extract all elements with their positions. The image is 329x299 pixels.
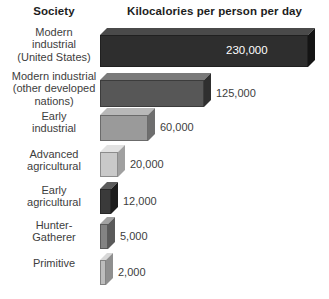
row-label: Modern industrial (United States) — [0, 26, 108, 63]
bar-value-label: 60,000 — [160, 121, 194, 133]
bar — [100, 217, 115, 249]
energy-consumption-bar-chart: Society Kilocalories per person per day … — [0, 0, 329, 299]
bar-top-face — [100, 28, 315, 35]
bar-value-label: 2,000 — [118, 266, 146, 278]
bar-value-label: 5,000 — [120, 230, 148, 242]
bar — [100, 108, 155, 141]
bar-value-label: 20,000 — [130, 158, 164, 170]
bar — [100, 73, 211, 107]
bar-value-label: 125,000 — [216, 87, 256, 99]
bar-3d-body — [100, 73, 211, 107]
row-label: Advanced agricultural — [0, 148, 108, 173]
bar-front-face — [100, 80, 204, 107]
bar — [100, 253, 113, 285]
bar-front-face — [100, 260, 106, 285]
row-label: Primitive — [0, 257, 108, 269]
bar-value-label: 12,000 — [123, 195, 157, 207]
bar-front-face — [100, 115, 148, 141]
row-label: Early agricultural — [0, 184, 108, 209]
bar-top-face — [100, 73, 211, 80]
bar — [100, 145, 125, 177]
bar-front-face — [100, 152, 118, 177]
bar — [100, 182, 118, 214]
bar-3d-body — [100, 182, 118, 214]
row-label: Modern industrial (other developed natio… — [0, 70, 112, 107]
bar-front-face — [100, 35, 308, 67]
bar-3d-body — [100, 28, 315, 67]
bar-3d-body — [100, 253, 113, 285]
row-label: Hunter- Gatherer — [0, 219, 108, 244]
column-header-society: Society — [0, 5, 108, 17]
bar — [100, 28, 315, 67]
bar-3d-body — [100, 217, 115, 249]
bar-3d-body — [100, 108, 155, 141]
column-header-kilocalories: Kilocalories per person per day — [127, 5, 302, 17]
bar-top-face — [100, 108, 155, 115]
row-label: Early industrial — [0, 110, 108, 135]
bar-value-label: 230,000 — [226, 44, 268, 56]
bar-3d-body — [100, 145, 125, 177]
bar-front-face — [100, 189, 111, 214]
bar-front-face — [100, 224, 108, 249]
